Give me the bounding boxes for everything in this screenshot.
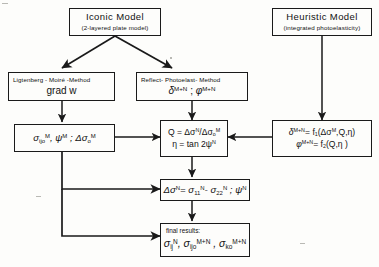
result-2-symbol: , σ — [178, 237, 190, 249]
node-reflect-photoelast-method[interactable]: Reflect- Photoelast- Method δM+N ; φM+N — [136, 72, 248, 101]
f2-term: = f — [313, 139, 323, 149]
f2-arg: (Q,η ) — [326, 139, 348, 149]
delta-sigma-term: ; Δσ — [67, 132, 87, 143]
node-delta-phi-functions[interactable]: δM+N= f1(ΔσM,Q,η) φM+N= f2(Q,η ) — [272, 120, 372, 157]
sigma-22-term: - σ — [205, 184, 217, 195]
scan-artifact — [36, 196, 41, 197]
node-iconic-model[interactable]: Iconic Model (2-layered plate model) — [69, 8, 161, 36]
psi-n-term: ; ψ — [227, 184, 242, 195]
node-delta-sigma-n[interactable]: ΔσN= σ11N- σ22N ; ψN — [160, 179, 250, 201]
q-formula: Q = ΔσN/ΔσoM — [168, 127, 220, 139]
reflect-photoelast-method-label: Reflect- Photoelast- Method — [137, 76, 220, 83]
heuristic-model-subtitle: (integrated photoelasticity) — [284, 24, 361, 31]
delta-sigma-n-formula: ΔσN= σ11N- σ22N ; ψN — [164, 184, 247, 197]
node-sigma-moire-results[interactable]: σijoM, ψM ; ΔσoM — [14, 124, 115, 152]
iconic-model-title: Iconic Model — [86, 12, 144, 23]
delta-superscript: M+N — [174, 85, 187, 92]
result-2-superscript: M+N — [196, 237, 210, 244]
f1-arg-end: ,Q,η) — [336, 127, 355, 137]
ligtenberg-method-label: Ligtenberg - Moiré -Method — [9, 76, 90, 83]
psi-term: , ψ — [50, 132, 62, 143]
scan-artifact — [2, 3, 8, 4]
sigma-11-term: = σ — [180, 184, 194, 195]
psi-n-superscript: N — [242, 184, 246, 190]
delta-function-formula: δM+N= f1(ΔσM,Q,η) — [289, 127, 355, 139]
flowchart-diagram: Iconic Model (2-layered plate model) Heu… — [0, 0, 379, 267]
scan-artifact — [170, 57, 172, 59]
node-heuristic-model[interactable]: Heuristic Model (integrated photoelastic… — [272, 8, 372, 36]
node-q-eta-relations[interactable]: Q = ΔσN/ΔσoM η = tan 2ψN — [160, 120, 228, 157]
f1-arg-start: (Δσ — [318, 127, 332, 137]
eta-term: η = tan 2ψ — [172, 139, 212, 149]
sigma-moire-formula: σijoM, ψM ; ΔσoM — [33, 132, 95, 145]
heuristic-model-title: Heuristic Model — [286, 12, 357, 23]
phi-fn-superscript: M+N — [302, 139, 313, 145]
q-divisor: /Δσ — [199, 127, 212, 137]
iconic-model-subtitle: (2-layered plate model) — [81, 24, 148, 31]
reflect-photoelast-formula: δM+N ; φM+N — [169, 85, 216, 97]
ligtenberg-formula: grad w — [46, 85, 76, 97]
phi-superscript: M+N — [202, 85, 215, 92]
scan-artifact — [300, 243, 305, 244]
sigma-22-subscript: 22 — [216, 189, 223, 195]
delta-fn-superscript: M+N — [294, 127, 305, 133]
eta-superscript: N — [212, 139, 216, 145]
result-3-superscript: M+N — [232, 237, 246, 244]
eta-formula: η = tan 2ψN — [172, 139, 216, 151]
delta-sigma-n-lhs: Δσ — [164, 184, 176, 195]
formula-separator: ; — [190, 85, 193, 96]
final-results-formula: σijN, σijoM+N , σkoM+N — [164, 237, 246, 250]
q-divisor-superscript: M — [216, 127, 220, 133]
node-final-results[interactable]: final results: σijN, σijoM+N , σkoM+N — [160, 223, 250, 257]
q-term: Q = Δσ — [168, 127, 196, 137]
node-ligtenberg-moire-method[interactable]: Ligtenberg - Moiré -Method grad w — [8, 72, 115, 101]
delta-sigma-superscript: M — [91, 132, 96, 138]
final-results-label: final results: — [161, 227, 200, 235]
f1-term: = f — [305, 127, 315, 137]
phi-function-formula: φM+N= f2(Q,η ) — [296, 139, 348, 151]
result-3-symbol: , σ — [210, 237, 225, 249]
